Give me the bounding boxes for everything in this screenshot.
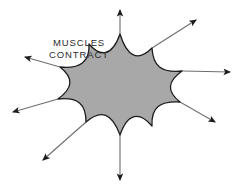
arrow-down-right — [180, 102, 215, 122]
arrow-right — [182, 71, 230, 72]
muscles-contract-label: MUSCLES CONTRACT — [49, 37, 109, 60]
muscles-contract-diagram: MUSCLES CONTRACT — [0, 0, 239, 193]
label-line-2: CONTRACT — [49, 49, 109, 60]
label-line-1: MUSCLES — [53, 37, 105, 48]
arrow-down-left — [43, 122, 86, 160]
diagram-canvas: MUSCLES CONTRACT — [0, 0, 239, 193]
arrow-left — [13, 99, 58, 112]
arrow-up-right — [152, 20, 196, 48]
